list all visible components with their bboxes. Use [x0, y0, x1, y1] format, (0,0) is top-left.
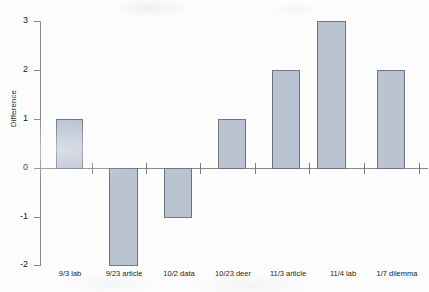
bar-9-3-lab — [56, 119, 83, 169]
x-tick-mark-6 — [364, 163, 365, 174]
y-tick-label-neg1: -1 — [2, 212, 28, 221]
plot-area: 3 2 1 0 -1 -2 9/3 lab 9/23 article 10/2 … — [0, 0, 429, 292]
x-label-10-2-data: 10/2 data — [152, 270, 206, 278]
x-tick-mark-3 — [200, 163, 201, 174]
y-axis-line — [40, 21, 41, 266]
bar-11-4-lab — [317, 21, 346, 169]
x-label-11-3-article: 11/3 article — [258, 270, 318, 278]
y-tick-mark-neg1 — [34, 217, 41, 218]
bar-9-23-article — [109, 168, 138, 266]
y-tick-label-3: 3 — [2, 16, 28, 25]
y-tick-label-0: 0 — [2, 163, 28, 172]
bar-10-2-data — [164, 168, 192, 218]
x-tick-mark-5 — [309, 163, 310, 174]
y-tick-mark-1 — [34, 119, 41, 120]
x-label-10-23-deer: 10/23 deer — [204, 270, 262, 278]
x-label-9-3-lab: 9/3 lab — [44, 270, 96, 278]
x-tick-mark-2 — [146, 163, 147, 174]
bar-11-3-article — [272, 70, 300, 169]
bar-chart: 3 2 1 0 -1 -2 9/3 lab 9/23 article 10/2 … — [0, 0, 429, 292]
y-tick-mark-0 — [34, 168, 41, 169]
y-tick-mark-3 — [34, 21, 41, 22]
x-tick-mark-4 — [255, 163, 256, 174]
bar-10-23-deer — [218, 119, 246, 169]
y-tick-mark-2 — [34, 70, 41, 71]
x-label-1-7-dilemma: 1/7 dilemma — [368, 270, 426, 278]
y-tick-label-neg2: -2 — [2, 260, 28, 269]
x-label-11-4-lab: 11/4 lab — [317, 270, 369, 278]
x-label-9-23-article: 9/23 article — [94, 270, 154, 278]
x-tick-mark-7 — [419, 163, 420, 174]
y-axis-title: Difference — [9, 74, 18, 144]
y-tick-mark-neg2 — [34, 265, 41, 266]
bar-1-7-dilemma — [377, 70, 405, 169]
x-tick-mark-1 — [92, 163, 93, 174]
